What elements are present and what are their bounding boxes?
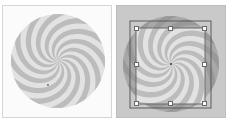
transformed-image-panel: [116, 5, 226, 118]
resize-handle-bottom-left[interactable]: [134, 101, 139, 106]
center-marker: [47, 84, 49, 86]
resize-handle-top-left[interactable]: [134, 26, 139, 31]
resize-handle-top-right[interactable]: [202, 26, 207, 31]
original-image-panel: [2, 5, 112, 118]
resize-handle-left[interactable]: [134, 62, 139, 67]
resize-handle-bottom[interactable]: [168, 101, 173, 106]
swirl-image: [3, 6, 113, 119]
pivot-point[interactable]: [170, 63, 172, 65]
resize-handle-top[interactable]: [168, 26, 173, 31]
resize-handle-bottom-right[interactable]: [202, 101, 207, 106]
resize-handle-right[interactable]: [202, 62, 207, 67]
